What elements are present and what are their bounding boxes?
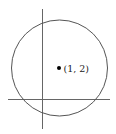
center-point — [57, 66, 61, 70]
center-point-label: (1, 2) — [64, 63, 90, 74]
circle-diagram: (1, 2) — [0, 0, 116, 134]
